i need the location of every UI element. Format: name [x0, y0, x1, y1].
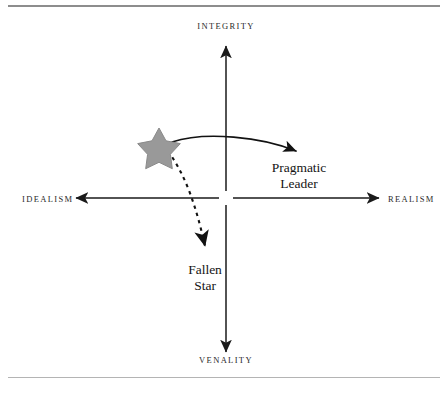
- axis-label-idealism: IDEALISM: [22, 194, 73, 204]
- axis-label-realism: REALISM: [388, 194, 435, 204]
- pragmatic-leader-line-2: Leader: [272, 176, 327, 192]
- axis-label-integrity: INTEGRITY: [197, 21, 254, 31]
- node-label-fallen-star: Fallen Star: [188, 262, 222, 293]
- axis-label-venality: VENALITY: [199, 355, 253, 365]
- fallen-star-line-1: Fallen: [188, 262, 222, 278]
- trajectory-pragmatic-leader: [172, 136, 296, 151]
- node-label-pragmatic-leader: Pragmatic Leader: [272, 160, 327, 191]
- pragmatic-leader-line-1: Pragmatic: [272, 160, 327, 176]
- star-marker: [138, 128, 181, 169]
- fallen-star-line-2: Star: [188, 278, 222, 294]
- quadrant-diagram-figure: INTEGRITY VENALITY IDEALISM REALISM Prag…: [0, 0, 447, 393]
